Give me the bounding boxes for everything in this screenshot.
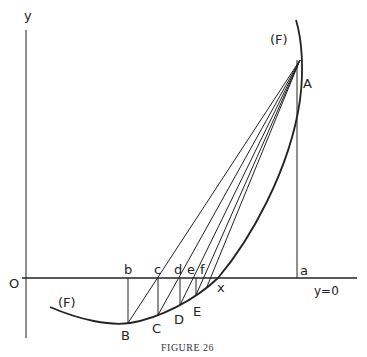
point-e-label: E [193,304,201,319]
curve-label-top: (F) [270,32,288,47]
axis-point-c-label: c [154,262,161,277]
axis-point-b-label: b [124,262,132,277]
curve-label-bottom: (F) [58,295,76,310]
figure-26: y O y=0 (F) (F) A B C D E a b c d e f x … [0,0,367,357]
point-a-label: A [303,76,312,91]
chord-a-e [196,60,300,295]
origin-label: O [9,276,19,291]
y-axis-label: y [24,8,32,23]
point-d-label: D [174,312,184,327]
axis-point-a-label: a [300,263,308,278]
axis-point-x-label: x [217,280,225,295]
axis-point-d-label: d [174,262,182,277]
chord-a-f [206,60,300,289]
figure-caption: FIGURE 26 [161,342,214,353]
diagram-canvas: y O y=0 (F) (F) A B C D E a b c d e f x … [0,0,367,357]
point-b-label: B [121,328,130,343]
point-c-label: C [152,321,161,336]
axis-point-e-label: e [187,262,195,277]
axis-point-f-label: f [200,262,205,277]
chord-a-b [128,60,300,323]
y-equals-0-label: y=0 [314,284,339,298]
chord-a-d [180,60,300,305]
